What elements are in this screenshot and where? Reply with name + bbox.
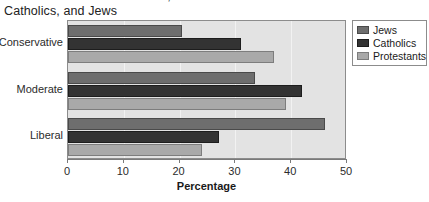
- legend-swatch-catholics: [357, 39, 369, 47]
- bar-liberal-protestants: [68, 144, 202, 156]
- legend-item-protestants[interactable]: Protestants: [357, 50, 423, 62]
- legend-label-protestants: Protestants: [373, 50, 426, 62]
- legend-label-catholics: Catholics: [373, 37, 416, 49]
- x-tick: [123, 159, 124, 163]
- y-axis-label-moderate: Moderate: [0, 83, 63, 95]
- bar-conservative-protestants: [68, 51, 274, 63]
- x-tick: [67, 159, 68, 163]
- x-axis: 01020304050: [67, 159, 346, 160]
- legend-item-catholics[interactable]: Catholics: [357, 37, 423, 49]
- x-tick-label-0: 0: [47, 165, 87, 177]
- x-tick: [234, 159, 235, 163]
- x-tick-label-40: 40: [270, 165, 310, 177]
- bar-moderate-jews: [68, 72, 255, 84]
- bar-moderate-protestants: [68, 98, 286, 110]
- x-tick-label-30: 30: [214, 165, 254, 177]
- bar-conservative-jews: [68, 25, 182, 37]
- x-tick: [179, 159, 180, 163]
- x-axis-title: Percentage: [67, 180, 346, 192]
- x-tick-label-50: 50: [326, 165, 366, 177]
- y-axis-label-liberal: Liberal: [0, 129, 63, 141]
- chart-legend: JewsCatholicsProtestants: [352, 20, 427, 66]
- bar-moderate-catholics: [68, 85, 302, 97]
- legend-item-jews[interactable]: Jews: [357, 24, 423, 36]
- bar-conservative-catholics: [68, 38, 241, 50]
- x-tick-label-20: 20: [159, 165, 199, 177]
- x-tick: [346, 159, 347, 163]
- chart-title-line-2: Catholics, and Jews: [4, 4, 424, 19]
- chart-title: Political Views of Protestants, Catholic…: [4, 0, 424, 19]
- bar-liberal-catholics: [68, 131, 219, 143]
- legend-label-jews: Jews: [373, 24, 397, 36]
- legend-swatch-protestants: [357, 52, 369, 60]
- x-tick: [290, 159, 291, 163]
- y-axis-label-conservative: Conservative: [0, 36, 63, 48]
- x-tick-label-10: 10: [103, 165, 143, 177]
- legend-swatch-jews: [357, 26, 369, 34]
- bar-liberal-jews: [68, 118, 325, 130]
- plot-area: [67, 20, 346, 159]
